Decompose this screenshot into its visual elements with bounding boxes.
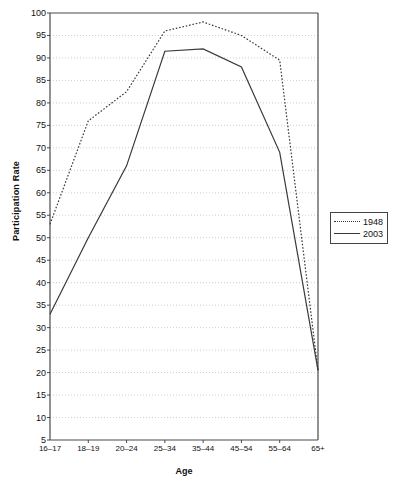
legend-swatch-dotted-icon — [334, 217, 360, 227]
x-tick-label: 18–19 — [77, 444, 99, 453]
chart-figure: Participation Rate 510152025303540455055… — [0, 0, 400, 487]
legend-label: 2003 — [363, 229, 383, 239]
chart-legend: 1948 2003 — [330, 212, 388, 244]
series-line-2003 — [50, 49, 318, 370]
series-line-1948 — [50, 22, 318, 370]
x-tick-label: 20–24 — [115, 444, 137, 453]
x-tick-label: 45–54 — [230, 444, 252, 453]
legend-label: 1948 — [363, 217, 383, 227]
legend-item-1948[interactable]: 1948 — [334, 216, 383, 228]
legend-swatch-solid-icon — [334, 229, 360, 239]
legend-item-2003[interactable]: 2003 — [334, 228, 383, 240]
x-axis-title: Age — [50, 466, 318, 476]
x-tick-label: 65+ — [311, 444, 325, 453]
x-tick-label: 35–44 — [192, 444, 214, 453]
x-tick-label: 25–34 — [154, 444, 176, 453]
x-tick-label: 55–64 — [269, 444, 291, 453]
x-tick-label: 16–17 — [39, 444, 61, 453]
